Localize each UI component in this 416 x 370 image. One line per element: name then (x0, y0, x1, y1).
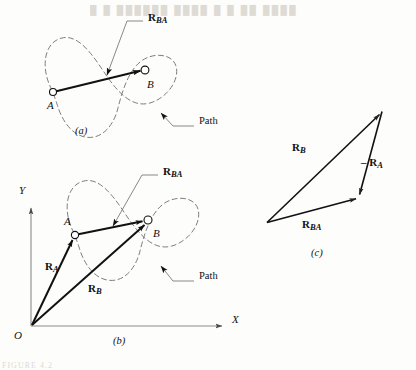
point-marker-b-A (71, 231, 78, 238)
panel-label-b: (b) (113, 336, 125, 347)
path-label-b: Path (199, 271, 218, 282)
vector-label-c-RBA: RBA (302, 219, 322, 231)
path-label-a: Path (199, 116, 218, 127)
scan-caption-remnant-bottom: FIGURE 4.2 (2, 361, 53, 370)
figure-graphics (0, 0, 416, 370)
figure-canvas: █ █ ██████ ████ █ █ ██ ████ RBA A B Path… (0, 0, 416, 370)
vector-sub-a-RBA: BA (156, 15, 168, 25)
vector-sub-b-RBA: BA (171, 169, 183, 179)
minus-sign: – (361, 156, 369, 168)
vector-sub-c-RBA: BA (310, 222, 322, 232)
vector-sub-b-RA: A (53, 264, 59, 274)
vector-label-b-RB: RB (88, 283, 102, 295)
point-label-a-B: B (147, 79, 154, 90)
vector-arrow-b-RB (32, 225, 145, 325)
scan-bleed-through-top: █ █ ██████ ████ █ █ ██ ████ (90, 5, 298, 15)
path-curve-a (45, 37, 177, 137)
point-label-b-A: A (64, 216, 71, 227)
vector-arrow-b-RA (32, 240, 73, 325)
point-marker-a-B (141, 66, 149, 74)
vector-sub-c-minus-RA: A (377, 160, 383, 170)
vector-label-a-RBA: RBA (148, 12, 168, 24)
vector-label-b-RBA: RBA (163, 166, 183, 178)
panel-label-a: (a) (75, 126, 87, 137)
vector-label-c-minus-RA: – RA (361, 157, 383, 169)
leader-a-RBA (107, 21, 143, 75)
axis-label-y: Y (19, 185, 25, 196)
path-curve-b (67, 180, 199, 280)
point-label-a-A: A (47, 100, 54, 111)
vector-arrow-a-RBA (56, 71, 140, 92)
axis-label-x: X (232, 314, 239, 325)
point-marker-b-B (144, 216, 152, 224)
panel-label-c: (c) (311, 248, 323, 259)
vector-arrow-b-RBA (78, 221, 142, 234)
leader-a-path (161, 113, 194, 126)
origin-label-o: O (14, 330, 22, 341)
point-marker-a-A (50, 89, 57, 96)
leader-b-path (161, 266, 194, 281)
point-label-b-B: B (153, 228, 160, 239)
vector-label-b-RA: RA (45, 261, 59, 273)
panel-b-graphics (31, 175, 222, 326)
vector-label-c-RB: RB (292, 142, 306, 154)
vector-sub-b-RB: B (96, 286, 102, 296)
panel-a-graphics (45, 21, 194, 137)
vector-sub-c-RB: B (300, 145, 306, 155)
